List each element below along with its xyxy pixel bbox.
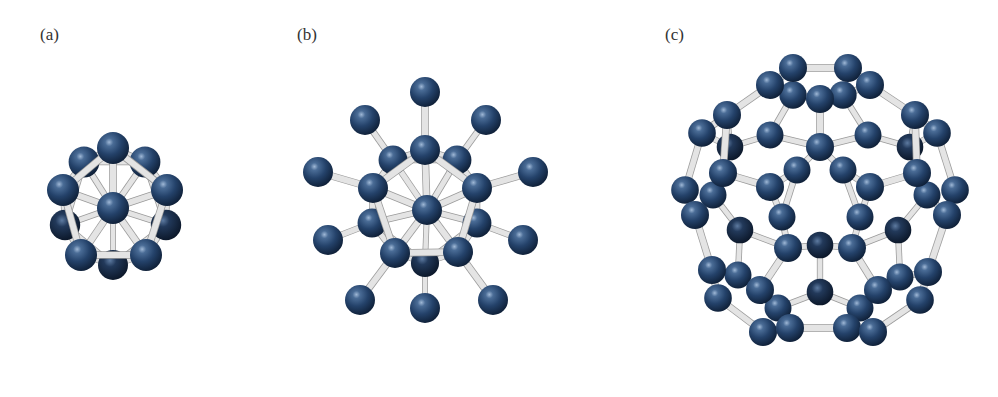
atom-sphere bbox=[807, 279, 834, 306]
atom-sphere bbox=[847, 204, 874, 231]
atom-sphere bbox=[776, 314, 804, 342]
atom-sphere bbox=[350, 105, 380, 135]
atom-sphere bbox=[151, 174, 183, 206]
atom-sphere bbox=[903, 159, 931, 187]
atom-sphere bbox=[671, 176, 699, 204]
atom-sphere bbox=[864, 276, 892, 304]
atom-sphere bbox=[830, 157, 857, 184]
atom-sphere bbox=[885, 217, 912, 244]
atom-sphere bbox=[462, 173, 492, 203]
atom-sphere bbox=[757, 122, 784, 149]
atom-sphere bbox=[313, 225, 343, 255]
atom-sphere bbox=[806, 133, 834, 161]
atom-sphere bbox=[774, 234, 802, 262]
atom-sphere bbox=[746, 276, 774, 304]
atom-sphere bbox=[727, 217, 754, 244]
atom-sphere bbox=[906, 286, 934, 314]
atom-sphere bbox=[410, 135, 440, 165]
atom-sphere bbox=[410, 293, 440, 323]
atom-sphere bbox=[901, 101, 929, 129]
atom-sphere bbox=[380, 238, 410, 268]
atom-sphere bbox=[806, 85, 834, 113]
atom-sphere bbox=[914, 258, 942, 286]
atom-sphere bbox=[855, 122, 882, 149]
atom-sphere bbox=[756, 71, 784, 99]
molecule-canvas bbox=[0, 0, 998, 397]
atom-sphere bbox=[698, 256, 726, 284]
atom-sphere bbox=[443, 237, 473, 267]
atom-sphere bbox=[688, 119, 716, 147]
atom-sphere bbox=[709, 159, 737, 187]
atom-sphere bbox=[412, 195, 442, 225]
atom-sphere bbox=[130, 239, 162, 271]
cluster-a-icosahedral bbox=[47, 132, 183, 280]
atom-sphere bbox=[97, 192, 129, 224]
atom-sphere bbox=[941, 176, 969, 204]
atom-sphere bbox=[923, 119, 951, 147]
atom-sphere bbox=[681, 201, 709, 229]
atom-sphere bbox=[833, 314, 861, 342]
atom-sphere bbox=[834, 54, 862, 82]
atom-sphere bbox=[856, 71, 884, 99]
atom-sphere bbox=[749, 318, 777, 346]
atom-sphere bbox=[303, 157, 333, 187]
atom-sphere bbox=[358, 173, 388, 203]
atom-sphere bbox=[933, 201, 961, 229]
atom-sphere bbox=[713, 101, 741, 129]
atom-sphere bbox=[47, 174, 79, 206]
atom-sphere bbox=[859, 318, 887, 346]
atom-sphere bbox=[829, 81, 856, 108]
atom-sphere bbox=[97, 132, 129, 164]
cluster-b-decorated-icosahedral bbox=[303, 77, 548, 323]
atom-sphere bbox=[779, 54, 807, 82]
atom-sphere bbox=[508, 225, 538, 255]
atom-sphere bbox=[65, 239, 97, 271]
cluster-c-fullerene-cage bbox=[671, 54, 969, 346]
atom-sphere bbox=[838, 234, 866, 262]
atom-sphere bbox=[769, 204, 796, 231]
atom-sphere bbox=[478, 285, 508, 315]
atom-sphere bbox=[807, 232, 834, 259]
atom-sphere bbox=[518, 157, 548, 187]
atom-sphere bbox=[471, 105, 501, 135]
atom-sphere bbox=[756, 173, 784, 201]
atom-sphere bbox=[784, 157, 811, 184]
atom-sphere bbox=[856, 173, 884, 201]
atom-sphere bbox=[345, 285, 375, 315]
atom-sphere bbox=[704, 284, 732, 312]
atom-sphere bbox=[410, 77, 440, 107]
